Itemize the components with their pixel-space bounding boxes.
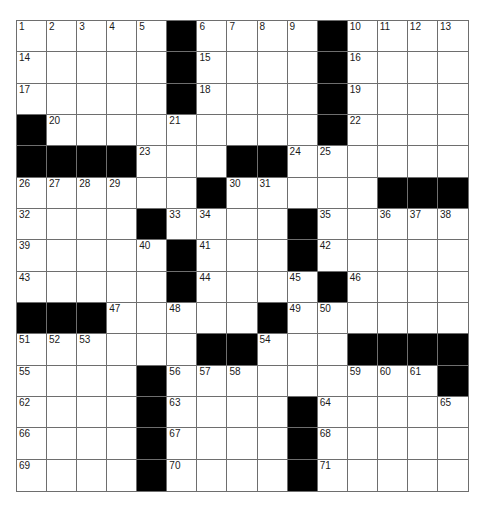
grid-cell[interactable]: 52 bbox=[47, 334, 77, 365]
grid-cell[interactable]: 64 bbox=[318, 397, 348, 428]
grid-cell[interactable]: 8 bbox=[258, 21, 288, 52]
grid-cell[interactable] bbox=[288, 334, 318, 365]
grid-cell[interactable]: 70 bbox=[167, 460, 197, 491]
grid-cell[interactable] bbox=[348, 240, 378, 271]
grid-cell[interactable] bbox=[107, 460, 137, 491]
grid-cell[interactable] bbox=[438, 146, 468, 177]
grid-cell[interactable]: 46 bbox=[348, 272, 378, 303]
grid-cell[interactable] bbox=[107, 428, 137, 459]
grid-cell[interactable]: 37 bbox=[408, 209, 438, 240]
grid-cell[interactable]: 61 bbox=[408, 366, 438, 397]
grid-cell[interactable]: 56 bbox=[167, 366, 197, 397]
grid-cell[interactable] bbox=[438, 303, 468, 334]
grid-cell[interactable]: 15 bbox=[197, 52, 227, 83]
grid-cell[interactable] bbox=[107, 272, 137, 303]
grid-cell[interactable]: 10 bbox=[348, 21, 378, 52]
grid-cell[interactable] bbox=[408, 84, 438, 115]
grid-cell[interactable]: 3 bbox=[77, 21, 107, 52]
grid-cell[interactable] bbox=[288, 115, 318, 146]
grid-cell[interactable] bbox=[227, 209, 257, 240]
grid-cell[interactable] bbox=[77, 84, 107, 115]
grid-cell[interactable] bbox=[77, 397, 107, 428]
grid-cell[interactable]: 71 bbox=[318, 460, 348, 491]
grid-cell[interactable]: 42 bbox=[318, 240, 348, 271]
grid-cell[interactable] bbox=[348, 303, 378, 334]
grid-cell[interactable]: 38 bbox=[438, 209, 468, 240]
grid-cell[interactable] bbox=[77, 460, 107, 491]
grid-cell[interactable] bbox=[137, 115, 167, 146]
grid-cell[interactable] bbox=[258, 460, 288, 491]
grid-cell[interactable]: 7 bbox=[227, 21, 257, 52]
grid-cell[interactable] bbox=[408, 52, 438, 83]
grid-cell[interactable]: 63 bbox=[167, 397, 197, 428]
grid-cell[interactable] bbox=[197, 115, 227, 146]
grid-cell[interactable]: 45 bbox=[288, 272, 318, 303]
grid-cell[interactable]: 40 bbox=[137, 240, 167, 271]
grid-cell[interactable]: 53 bbox=[77, 334, 107, 365]
grid-cell[interactable] bbox=[258, 52, 288, 83]
grid-cell[interactable]: 25 bbox=[318, 146, 348, 177]
grid-cell[interactable] bbox=[258, 397, 288, 428]
grid-cell[interactable] bbox=[408, 146, 438, 177]
grid-cell[interactable]: 30 bbox=[227, 178, 257, 209]
grid-cell[interactable] bbox=[107, 84, 137, 115]
grid-cell[interactable] bbox=[47, 52, 77, 83]
grid-cell[interactable] bbox=[288, 52, 318, 83]
grid-cell[interactable]: 55 bbox=[17, 366, 47, 397]
grid-cell[interactable] bbox=[47, 272, 77, 303]
grid-cell[interactable]: 26 bbox=[17, 178, 47, 209]
grid-cell[interactable]: 59 bbox=[348, 366, 378, 397]
grid-cell[interactable] bbox=[77, 209, 107, 240]
grid-cell[interactable] bbox=[137, 334, 167, 365]
grid-cell[interactable]: 39 bbox=[17, 240, 47, 271]
grid-cell[interactable]: 43 bbox=[17, 272, 47, 303]
grid-cell[interactable]: 67 bbox=[167, 428, 197, 459]
grid-cell[interactable] bbox=[47, 240, 77, 271]
grid-cell[interactable]: 33 bbox=[167, 209, 197, 240]
grid-cell[interactable] bbox=[227, 115, 257, 146]
grid-cell[interactable] bbox=[77, 428, 107, 459]
grid-cell[interactable] bbox=[378, 84, 408, 115]
grid-cell[interactable]: 69 bbox=[17, 460, 47, 491]
grid-cell[interactable] bbox=[258, 272, 288, 303]
grid-cell[interactable] bbox=[348, 397, 378, 428]
grid-cell[interactable]: 19 bbox=[348, 84, 378, 115]
grid-cell[interactable]: 65 bbox=[438, 397, 468, 428]
grid-cell[interactable]: 21 bbox=[167, 115, 197, 146]
grid-cell[interactable] bbox=[408, 272, 438, 303]
grid-cell[interactable] bbox=[137, 84, 167, 115]
grid-cell[interactable] bbox=[438, 84, 468, 115]
grid-cell[interactable] bbox=[107, 397, 137, 428]
grid-cell[interactable] bbox=[378, 240, 408, 271]
grid-cell[interactable] bbox=[438, 428, 468, 459]
grid-cell[interactable]: 23 bbox=[137, 146, 167, 177]
grid-cell[interactable] bbox=[378, 428, 408, 459]
grid-cell[interactable] bbox=[227, 84, 257, 115]
grid-cell[interactable] bbox=[197, 460, 227, 491]
grid-cell[interactable] bbox=[408, 460, 438, 491]
grid-cell[interactable] bbox=[47, 460, 77, 491]
grid-cell[interactable]: 32 bbox=[17, 209, 47, 240]
grid-cell[interactable] bbox=[227, 240, 257, 271]
grid-cell[interactable] bbox=[107, 52, 137, 83]
grid-cell[interactable] bbox=[47, 397, 77, 428]
grid-cell[interactable] bbox=[258, 366, 288, 397]
grid-cell[interactable] bbox=[348, 460, 378, 491]
grid-cell[interactable]: 62 bbox=[17, 397, 47, 428]
grid-cell[interactable] bbox=[137, 303, 167, 334]
grid-cell[interactable] bbox=[227, 397, 257, 428]
grid-cell[interactable]: 22 bbox=[348, 115, 378, 146]
grid-cell[interactable] bbox=[378, 460, 408, 491]
grid-cell[interactable] bbox=[227, 52, 257, 83]
grid-cell[interactable]: 4 bbox=[107, 21, 137, 52]
grid-cell[interactable] bbox=[77, 52, 107, 83]
grid-cell[interactable] bbox=[408, 303, 438, 334]
grid-cell[interactable]: 27 bbox=[47, 178, 77, 209]
grid-cell[interactable] bbox=[408, 397, 438, 428]
grid-cell[interactable]: 36 bbox=[378, 209, 408, 240]
grid-cell[interactable]: 29 bbox=[107, 178, 137, 209]
grid-cell[interactable] bbox=[167, 146, 197, 177]
grid-cell[interactable] bbox=[438, 240, 468, 271]
grid-cell[interactable] bbox=[438, 460, 468, 491]
grid-cell[interactable] bbox=[348, 209, 378, 240]
